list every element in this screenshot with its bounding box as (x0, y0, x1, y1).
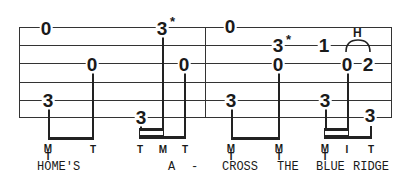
fret-number: 3 (135, 108, 148, 127)
lyric-word: THE (277, 161, 299, 173)
stem (162, 36, 164, 139)
lyric-word: HOME'S (37, 161, 80, 173)
barline-start (19, 27, 20, 118)
finger-label: T (90, 145, 96, 155)
fret-number: 0 (178, 55, 191, 74)
finger-label: T (182, 145, 188, 155)
fret-number: 0 (40, 19, 53, 38)
fret-number: 0 (341, 55, 354, 74)
fret-number: 3 (319, 91, 332, 110)
fret-number: 2 (362, 55, 375, 74)
star-marker: * (170, 15, 175, 28)
beam (324, 136, 372, 139)
stem (48, 108, 50, 139)
finger-label: T (368, 145, 374, 155)
double-beam (324, 128, 349, 136)
finger-label: M (159, 145, 167, 155)
lyric-word: - (191, 161, 198, 173)
fret-number: 3 (364, 106, 377, 125)
fret-number: 3 (272, 36, 285, 55)
stem (231, 108, 233, 139)
lyric-word: BLUE (316, 161, 345, 173)
stem (92, 72, 94, 139)
stem (278, 72, 280, 139)
lyric-word: A (168, 161, 175, 173)
fret-number: 0 (86, 55, 99, 74)
fret-number: 0 (224, 17, 237, 36)
finger-label: T (137, 145, 143, 155)
barline-end (391, 27, 392, 118)
hammer-on-arc-icon (344, 38, 372, 54)
fret-number: 3 (42, 91, 55, 110)
barline-middle (205, 27, 206, 118)
lyric-word: CROSS (222, 161, 258, 173)
star-marker: * (286, 33, 291, 46)
beam (48, 137, 94, 140)
fret-number: 3 (225, 91, 238, 110)
double-beam (139, 128, 164, 136)
fret-number: 3 (156, 19, 169, 38)
beam (139, 136, 186, 139)
stem (184, 72, 186, 139)
fret-number: 0 (272, 55, 285, 74)
finger-label: I (346, 145, 349, 155)
beam (231, 137, 280, 140)
lyric-word: RIDGE (353, 161, 389, 173)
fret-number: 1 (318, 36, 331, 55)
